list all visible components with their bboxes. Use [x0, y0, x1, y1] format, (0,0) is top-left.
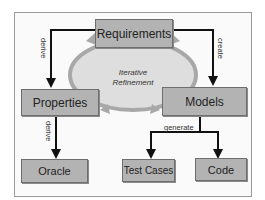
- arrow-down-icon: [146, 149, 156, 159]
- node-properties[interactable]: Properties: [21, 89, 99, 116]
- center-label-line2: Refinement: [106, 78, 160, 88]
- arrow-down-icon: [208, 76, 218, 86]
- node-label: Test Cases: [124, 165, 173, 176]
- node-label: Requirements: [97, 27, 172, 41]
- edge-label-generate: generate: [164, 123, 194, 132]
- arrow-down-icon: [46, 78, 56, 88]
- iterative-refinement-label: Iterative Refinement: [106, 68, 160, 88]
- edge-label-create: create: [216, 38, 225, 59]
- node-label: Properties: [33, 96, 88, 110]
- node-test-cases[interactable]: Test Cases: [122, 159, 175, 182]
- node-oracle[interactable]: Oracle: [21, 159, 88, 183]
- node-label: Oracle: [38, 165, 70, 177]
- node-label: Code: [208, 164, 234, 176]
- node-code[interactable]: Code: [195, 158, 247, 181]
- edge-label-derive: derive: [39, 38, 48, 58]
- node-models[interactable]: Models: [162, 87, 247, 116]
- node-label: Models: [185, 95, 224, 109]
- center-label-line1: Iterative: [106, 68, 160, 78]
- arrow-down-icon: [51, 149, 61, 159]
- edge-label-derive-oracle: derive: [44, 121, 53, 141]
- node-requirements[interactable]: Requirements: [95, 19, 173, 48]
